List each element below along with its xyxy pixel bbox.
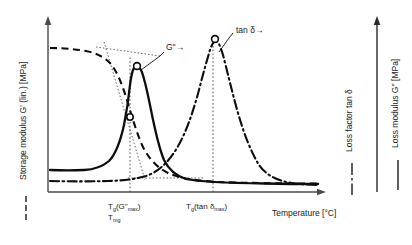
svg-text:Tg(G"max): Tg(G"max): [108, 202, 141, 212]
loss-modulus-peak-marker[interactable]: [134, 63, 141, 70]
svg-text:Tg(tan δmax): Tg(tan δmax): [186, 202, 228, 212]
bottom-axis-arrowhead: [317, 189, 326, 196]
annotation-tan-delta: tan δ→: [236, 25, 263, 35]
storage-modulus-inflection-marker[interactable]: [127, 114, 133, 120]
x-tick-label-tmg: Tmg: [108, 213, 120, 223]
tg-gmax-mid: (G": [116, 202, 128, 211]
chart-svg: G"→ tan δ→ Storage modulus G' (lin.) [MP…: [0, 0, 412, 245]
x-tick-label-tg-gmax: Tg(G"max): [108, 202, 141, 212]
x-axis-title: Temperature [°C]: [272, 208, 336, 218]
right-inner-axis-title-group: Loss factor tan δ: [344, 89, 354, 195]
g-double-prime-curve: [50, 66, 318, 184]
tg-tandmax-mid: (tan δ: [194, 202, 215, 211]
tg-tandmax-sub2: max: [214, 206, 224, 212]
tan-delta-peak-marker[interactable]: [212, 36, 219, 43]
right-outer-axis-title-group: Loss modulus G'' [MPa]: [390, 59, 400, 190]
x-tick-label-tg-tandmax: Tg(tan δmax): [186, 202, 228, 212]
series-tan-delta: [50, 41, 318, 185]
tangent-upper-plateau: [96, 47, 160, 56]
left-axis-title-group: Storage modulus G' (lin.) [MPa]: [18, 62, 28, 220]
annotation-leader-lines: [141, 33, 233, 70]
dma-thermogram-figure: G"→ tan δ→ Storage modulus G' (lin.) [MP…: [0, 0, 412, 245]
svg-text:Tmg: Tmg: [108, 213, 120, 223]
tg-gmax-sub2: max: [128, 206, 138, 212]
right-axis-arrowhead: [374, 16, 381, 25]
right-outer-axis-title: Loss modulus G'' [MPa]: [390, 59, 400, 148]
tg-tandmax-end: ): [225, 202, 228, 211]
tan-delta-curve: [50, 41, 318, 185]
annotation-g-double-prime: G"→: [166, 42, 184, 52]
left-axis-arrowhead: [45, 16, 52, 25]
tg-gmax-end: ): [138, 202, 141, 211]
g-prime-curve: [50, 48, 318, 184]
tmg-sub: mg: [113, 217, 121, 223]
series-storage-modulus-g-prime: [50, 48, 318, 184]
tan-delta-leader: [219, 33, 233, 52]
left-axis-title: Storage modulus G' (lin.) [MPa]: [18, 62, 28, 180]
series-loss-modulus-g-double-prime: [50, 66, 318, 184]
right-inner-axis-title: Loss factor tan δ: [344, 89, 354, 152]
